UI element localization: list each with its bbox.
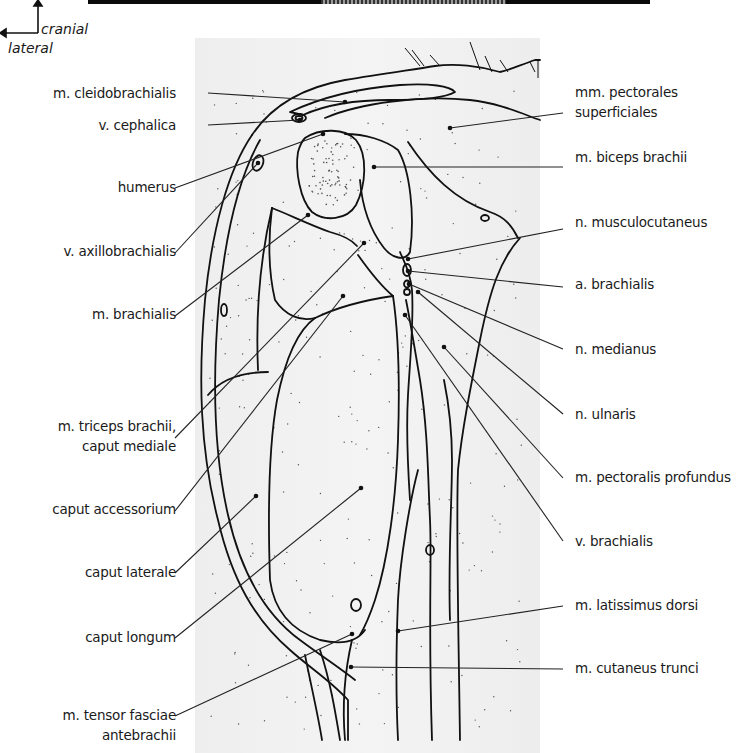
hair-strokes — [405, 42, 538, 78]
label-text-line: m. latissimus dorsi — [575, 595, 698, 615]
leader-dot-brachialis — [306, 213, 311, 218]
leader-line-latissimus — [398, 606, 563, 631]
small-vessel — [351, 599, 361, 611]
label-text-line: superficiales — [575, 102, 678, 122]
leader-line-a-brachialis — [408, 271, 563, 287]
ulnar-nerve — [404, 289, 410, 295]
label-text-line: caput accessorium — [52, 499, 176, 519]
leader-line-longum — [175, 488, 361, 638]
label-text-line: m. brachialis — [92, 304, 176, 324]
humerus-outline — [297, 131, 364, 218]
leader-dot-laterale — [254, 494, 259, 499]
leader-dot-longum — [359, 486, 364, 491]
leader-dot-biceps — [372, 165, 377, 170]
leader-line-tensor — [175, 634, 352, 716]
label-text-line: n. musculocutaneus — [575, 212, 707, 232]
anatomy-outlines — [201, 60, 540, 740]
leader-line-cephalica — [208, 120, 300, 125]
leader-dot-pectoralis-profundus — [442, 345, 447, 350]
cranial-label: cranial — [41, 21, 88, 37]
tensor-outline — [320, 650, 340, 740]
pectoralis-profundus-inner — [444, 380, 452, 620]
leader-line-brachialis — [175, 215, 308, 316]
leader-line-axillobrachialis — [175, 163, 258, 253]
label-text-line: m. biceps brachii — [575, 147, 687, 167]
cranial-arrow-head-icon — [34, 0, 42, 6]
label-text-line: caput mediale — [58, 436, 176, 456]
label-v-brachialis: v. brachialis — [575, 531, 653, 551]
label-text-line: a. brachialis — [575, 274, 654, 294]
label-text-line: humerus — [118, 177, 176, 197]
skin-outline-inner — [215, 140, 355, 680]
leader-line-pectoralis-profundus — [444, 347, 563, 478]
label-text-line: m. pectoralis profundus — [575, 467, 731, 487]
leader-dot-cephalica — [298, 118, 303, 123]
skin-outline-lateral — [201, 135, 348, 740]
leader-dot-ulnaris — [416, 290, 421, 295]
label-text-line: v. axillobrachialis — [64, 241, 176, 261]
label-longum: caput longum — [85, 627, 176, 647]
leader-line-humerus — [175, 134, 323, 188]
label-pectoralis-profundus: m. pectoralis profundus — [575, 467, 731, 487]
leader-dot-cleidobrachialis — [343, 100, 348, 105]
leader-dot-musculocutaneus — [406, 257, 411, 262]
leader-dot-pectorales-superficiales — [448, 126, 453, 131]
leader-line-ulnaris — [418, 292, 563, 414]
small-vessel — [221, 304, 227, 316]
label-latissimus: m. latissimus dorsi — [575, 595, 698, 615]
label-text-line: m. cutaneus trunci — [575, 658, 699, 678]
brachialis-lower — [269, 208, 315, 319]
pectoralis-profundus-outline — [457, 238, 520, 740]
label-text-line: m. triceps brachii, — [58, 416, 176, 436]
label-a-brachialis: a. brachialis — [575, 274, 654, 294]
label-text-line: n. ulnaris — [575, 404, 636, 424]
label-text-line: mm. pectorales — [575, 82, 678, 102]
label-humerus: humerus — [118, 177, 176, 197]
leader-dot-humerus — [321, 132, 326, 137]
lateral-label: lateral — [8, 40, 53, 56]
label-accessorium: caput accessorium — [52, 499, 176, 519]
leader-line-medianus — [409, 284, 563, 349]
label-text-line: m. cleidobrachialis — [53, 83, 176, 103]
skin-outline — [252, 60, 540, 135]
label-tensor: m. tensor fasciaeantebrachii — [63, 705, 176, 745]
label-text-line: n. medianus — [575, 339, 656, 359]
label-biceps: m. biceps brachii — [575, 147, 687, 167]
label-text-line: antebrachii — [63, 725, 176, 745]
leader-line-musculocutaneus — [408, 229, 563, 259]
latissimus-outline — [397, 470, 419, 740]
caput-longum-medial — [360, 296, 399, 635]
label-cephalica: v. cephalica — [99, 115, 176, 135]
label-cutaneus-trunci: m. cutaneus trunci — [575, 658, 699, 678]
label-laterale: caput laterale — [85, 562, 176, 582]
leader-line-accessorium — [175, 296, 343, 511]
leader-dot-a-brachialis — [406, 269, 411, 274]
tensor-outline-2 — [305, 655, 322, 740]
caput-longum-outline — [269, 318, 365, 642]
label-medianus: n. medianus — [575, 339, 656, 359]
leader-line-cleidobrachialis — [208, 93, 345, 102]
label-musculocutaneus: n. musculocutaneus — [575, 212, 707, 232]
triceps-mediale-outline — [315, 255, 393, 318]
leader-dot-axillobrachialis — [256, 161, 261, 166]
lateral-arrow-head-icon — [0, 29, 6, 37]
leader-lines — [175, 93, 563, 716]
leader-dot-accessorium — [341, 294, 346, 299]
label-ulnaris: n. ulnaris — [575, 404, 636, 424]
label-brachialis: m. brachialis — [92, 304, 176, 324]
label-text-line: v. cephalica — [99, 115, 176, 135]
small-vessel — [481, 215, 489, 221]
label-cleidobrachialis: m. cleidobrachialis — [53, 83, 176, 103]
leader-line-triceps-mediale — [175, 243, 364, 438]
label-axillobrachialis: v. axillobrachialis — [64, 241, 176, 261]
label-text-line: m. tensor fasciae — [63, 705, 176, 725]
label-text-line: caput longum — [85, 627, 176, 647]
biceps-outline — [345, 134, 412, 258]
leader-line-cutaneus-trunci — [351, 667, 563, 669]
pectorales-lower — [408, 142, 518, 238]
orientation-arrows — [0, 0, 42, 37]
leader-dots — [254, 100, 453, 670]
label-text-line: v. brachialis — [575, 531, 653, 551]
label-text-line: caput laterale — [85, 562, 176, 582]
leader-dot-v-brachialis — [403, 313, 408, 318]
